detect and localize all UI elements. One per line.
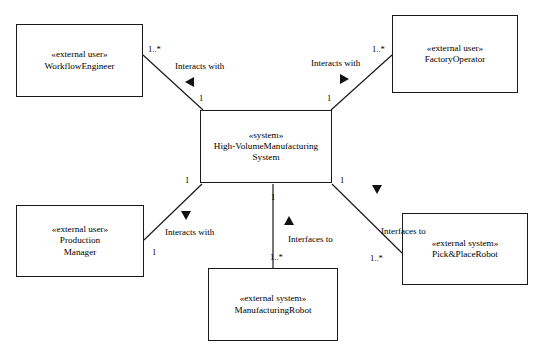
multiplicity-target-system-to-manufacturing-robot: 1..*: [270, 253, 283, 262]
multiplicity-source-workflow-engineer-to-system: 1..*: [148, 45, 161, 54]
multiplicity-source-factory-operator-to-system: 1..*: [372, 45, 385, 54]
node-production-manager[interactable]: «external user»ProductionManager: [16, 205, 144, 277]
node-name-line: High-VolumeManufacturing: [214, 141, 318, 152]
multiplicity-target-system-to-pick-and-place-robot: 1..*: [370, 254, 383, 263]
node-name-line: Pick&PlaceRobot: [432, 249, 498, 260]
multiplicity-source-system-to-manufacturing-robot: 1: [271, 193, 275, 202]
multiplicity-target-workflow-engineer-to-system: 1: [199, 94, 203, 103]
edge-line-system-to-pick-and-place-robot[interactable]: [332, 184, 402, 253]
edge-label-production-manager-to-system: Interacts with: [165, 228, 214, 237]
node-workflow-engineer[interactable]: «external user»WorkflowEngineer: [16, 24, 143, 97]
node-factory-operator[interactable]: «external user»FactoryOperator: [392, 15, 518, 93]
node-name-line: FactoryOperator: [425, 54, 486, 65]
multiplicity-target-production-manager-to-system: 1: [185, 176, 189, 185]
edge-label-factory-operator-to-system: Interacts with: [311, 59, 360, 68]
node-name-line: Manager: [64, 247, 97, 258]
arrowhead-down-icon: [372, 185, 382, 194]
arrowhead-down-icon: [181, 211, 191, 220]
node-stereotype: «external user»: [51, 49, 107, 60]
uml-diagram-canvas: «external user»WorkflowEngineer«external…: [0, 0, 534, 356]
edge-label-system-to-pick-and-place-robot: Interfaces to: [381, 227, 426, 236]
edge-label-workflow-engineer-to-system: Interacts with: [175, 62, 224, 71]
edge-label-system-to-manufacturing-robot: Interfaces to: [288, 235, 333, 244]
node-name-line: ManufacturingRobot: [234, 305, 311, 316]
node-name-line: System: [252, 152, 279, 163]
node-stereotype: «external user»: [427, 43, 483, 54]
arrowhead-up-icon: [284, 216, 294, 225]
node-stereotype: «external system»: [240, 293, 307, 304]
node-high-volume-manufacturing-system[interactable]: «system»High-VolumeManufacturingSystem: [200, 110, 332, 183]
node-name-line: WorkflowEngineer: [44, 61, 114, 72]
multiplicity-source-system-to-pick-and-place-robot: 1: [340, 176, 344, 185]
arrowhead-right-icon: [340, 74, 349, 84]
node-stereotype: «system»: [249, 130, 284, 141]
node-manufacturing-robot[interactable]: «external system»ManufacturingRobot: [208, 268, 338, 341]
node-name-line: Production: [60, 235, 100, 246]
multiplicity-target-factory-operator-to-system: 1: [327, 94, 331, 103]
multiplicity-source-production-manager-to-system: 1: [152, 248, 156, 257]
node-pick-and-place-robot[interactable]: «external system»Pick&PlaceRobot: [402, 213, 528, 285]
arrowhead-left-icon: [185, 77, 194, 87]
node-stereotype: «external user»: [52, 224, 108, 235]
node-stereotype: «external system»: [432, 238, 499, 249]
